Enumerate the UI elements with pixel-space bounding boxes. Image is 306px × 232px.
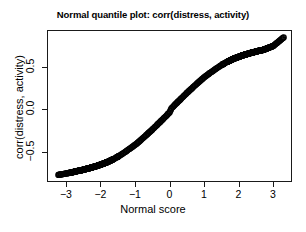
x-tick-mark — [204, 182, 205, 187]
x-tick-label: 1 — [189, 188, 219, 200]
y-tick-label: −0.5 — [24, 138, 36, 164]
y-tick-mark — [42, 67, 47, 68]
x-tick-mark — [135, 182, 136, 187]
y-tick-label: 0.0 — [24, 95, 36, 121]
x-tick-label: 3 — [258, 188, 288, 200]
x-tick-mark — [273, 182, 274, 187]
x-tick-mark — [170, 182, 171, 187]
x-tick-mark — [100, 182, 101, 187]
normal-quantile-plot-figure: Normal quantile plot: corr(distress, act… — [0, 0, 306, 232]
y-axis-label: corr(distress, activity) — [13, 27, 25, 187]
x-tick-mark — [66, 182, 67, 187]
x-tick-label: 2 — [224, 188, 254, 200]
x-tick-mark — [239, 182, 240, 187]
scatter-points-layer — [48, 31, 292, 182]
x-axis-label: Normal score — [0, 203, 306, 215]
y-tick-label: 0.5 — [24, 53, 36, 79]
page-title: Normal quantile plot: corr(distress, act… — [0, 9, 306, 20]
plot-area — [47, 30, 292, 182]
x-tick-label: −3 — [51, 188, 81, 200]
x-tick-label: −1 — [120, 188, 150, 200]
y-tick-mark — [42, 109, 47, 110]
y-tick-mark — [42, 152, 47, 153]
x-tick-label: −2 — [85, 188, 115, 200]
x-tick-label: 0 — [155, 188, 185, 200]
